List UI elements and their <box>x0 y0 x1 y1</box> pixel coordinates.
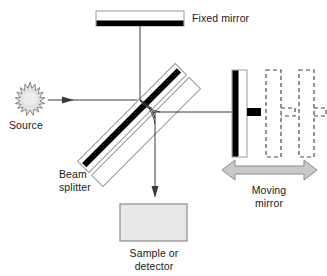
beam-splitter <box>78 64 201 187</box>
moving-mirror-ghost-1-handle <box>281 108 295 116</box>
moving-mirror-ghost-1-body <box>266 70 281 157</box>
diagram-canvas <box>0 0 327 276</box>
sample-or-detector-label-line2: detector <box>135 260 174 273</box>
source-label: Source <box>9 119 43 132</box>
moving-mirror-ghost-2-body <box>299 70 314 157</box>
moving-mirror-handle <box>247 108 261 116</box>
interferometer-diagram: Fixed mirror Source Beam splitter Moving… <box>0 0 327 276</box>
moving-mirror-label-line2: mirror <box>255 197 283 210</box>
moving-mirror-reflective-bar <box>233 71 239 157</box>
moving-mirror <box>232 70 261 157</box>
fixed-mirror-reflective-bar <box>97 21 184 27</box>
moving-mirror-travel-arrow <box>222 160 317 180</box>
moving-mirror-ghost-2 <box>299 70 326 157</box>
beam-detector-arrowhead <box>152 186 159 198</box>
moving-mirror-ghost-1 <box>266 70 295 157</box>
moving-mirror-ghost-positions <box>266 70 326 157</box>
beam-source-arrowhead <box>62 97 74 104</box>
sample-or-detector-label-line1: Sample or <box>130 247 179 260</box>
fixed-mirror <box>96 11 184 42</box>
moving-mirror-ghost-2-handle <box>314 108 326 116</box>
moving-mirror-label-line1: Moving <box>252 184 286 197</box>
beam-splitter-label-line1: Beam <box>59 168 87 181</box>
fixed-mirror-label: Fixed mirror <box>192 12 249 25</box>
source-starburst <box>15 82 45 115</box>
source-core <box>23 92 37 106</box>
beam-splitter-label-line2: splitter <box>59 181 91 194</box>
sample-or-detector-box <box>120 204 187 241</box>
